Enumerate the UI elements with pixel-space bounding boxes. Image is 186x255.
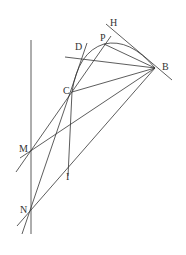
line-b-m <box>20 68 155 158</box>
line-b-p <box>104 44 155 68</box>
line-b-c <box>72 68 155 92</box>
geometry-diagram: H P D B C M I N <box>0 0 186 255</box>
label-m: M <box>19 143 28 154</box>
label-c: C <box>63 85 70 96</box>
line-b-d <box>65 57 155 68</box>
label-i: I <box>66 171 69 182</box>
label-h: H <box>110 17 117 28</box>
label-d: D <box>75 41 82 52</box>
label-b: B <box>162 61 169 72</box>
label-p: P <box>100 32 106 43</box>
line-d-n <box>22 43 87 234</box>
line-b-n <box>17 68 155 226</box>
label-n: N <box>20 204 27 215</box>
diagram-canvas: H P D B C M I N <box>0 0 186 255</box>
